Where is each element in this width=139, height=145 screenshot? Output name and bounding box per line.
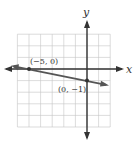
y-axis-arrow-down-icon [84,132,90,140]
coordinate-plane: x y (−5, 0) (0, −1) [0,0,139,145]
point-a [27,67,31,71]
y-axis-arrow-up-icon [84,20,90,28]
point-a-label: (−5, 0) [30,57,58,66]
x-axis-label: x [126,63,133,76]
x-axis-arrow-left-icon [4,66,12,72]
grid [17,34,110,127]
point-b [85,79,89,83]
point-b-label: (0, −1) [58,85,86,94]
line-arrow-right-icon [100,81,109,87]
plotted-line [11,64,109,86]
x-axis-arrow-right-icon [116,66,124,72]
y-axis-label: y [82,6,90,19]
